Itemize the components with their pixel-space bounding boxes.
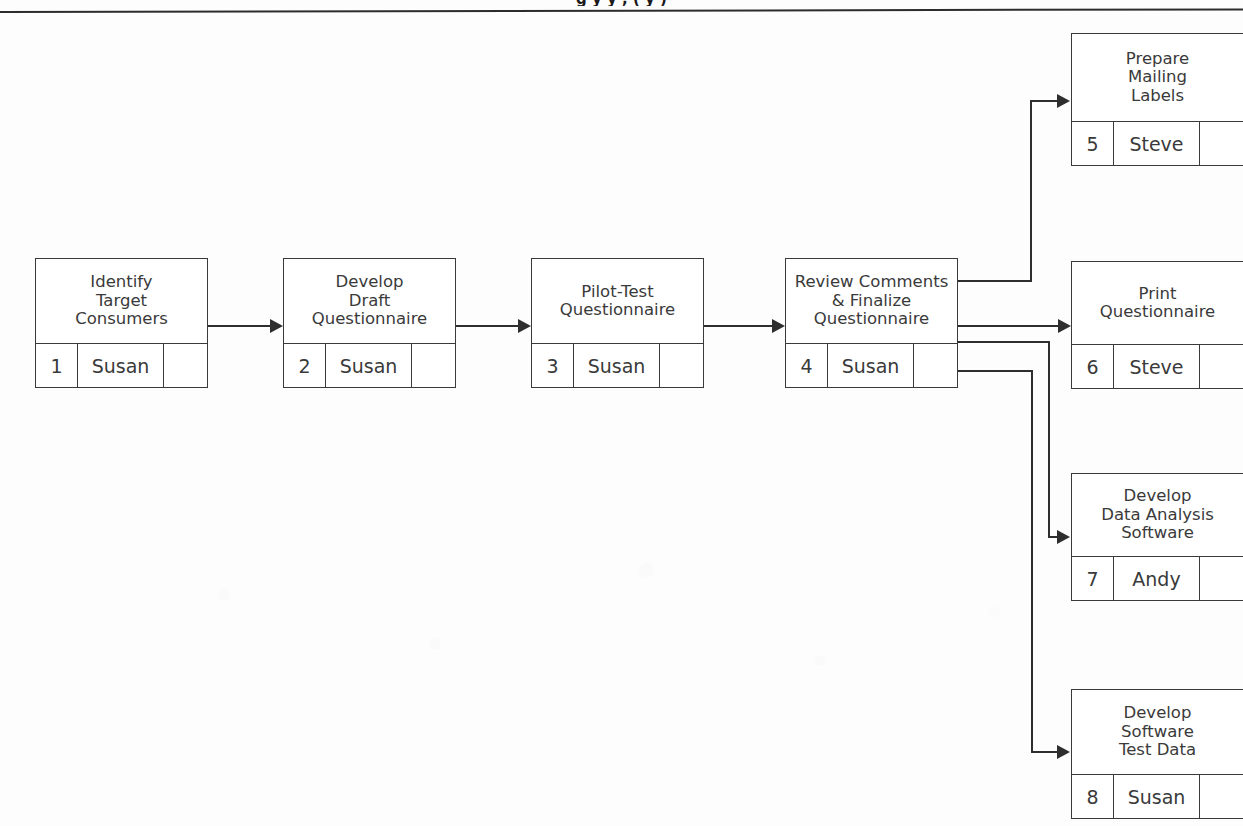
task-extra — [660, 344, 703, 387]
arrowhead-2-to-3 — [518, 319, 531, 333]
task-extra — [1200, 345, 1243, 388]
task-footer: 5 Steve — [1072, 121, 1243, 165]
task-owner: Andy — [1114, 557, 1200, 600]
task-footer: 2 Susan — [284, 343, 455, 387]
connector-4-to-8-segment-h2 — [1031, 751, 1058, 753]
task-title: Pilot-Test Questionnaire — [532, 259, 703, 343]
task-footer: 7 Andy — [1072, 556, 1243, 600]
arrowhead-4-to-6 — [1058, 319, 1071, 333]
connector-4-to-5-segment-v — [1030, 100, 1032, 282]
task-extra — [164, 344, 207, 387]
task-title: Develop Software Test Data — [1072, 690, 1243, 774]
task-extra — [412, 344, 455, 387]
connector-4-to-5-segment-h2 — [1030, 100, 1058, 102]
connector-4-to-8-segment-v — [1031, 370, 1033, 753]
task-title: Develop Data Analysis Software — [1072, 474, 1243, 556]
task-id: 2 — [284, 344, 326, 387]
task-box-identify-target-consumers[interactable]: Identify Target Consumers 1 Susan — [35, 258, 208, 388]
arrowhead-4-to-7 — [1057, 530, 1070, 544]
task-owner: Susan — [326, 344, 412, 387]
arrowhead-1-to-2 — [270, 319, 283, 333]
task-title: Develop Draft Questionnaire — [284, 259, 455, 343]
task-id: 3 — [532, 344, 574, 387]
task-id: 1 — [36, 344, 78, 387]
task-id: 6 — [1072, 345, 1114, 388]
task-box-prepare-mailing-labels[interactable]: Prepare Mailing Labels 5 Steve — [1071, 33, 1243, 166]
task-id: 5 — [1072, 122, 1114, 165]
task-owner: Susan — [1114, 775, 1200, 818]
task-footer: 3 Susan — [532, 343, 703, 387]
task-id: 8 — [1072, 775, 1114, 818]
header-rule — [0, 8, 1243, 13]
task-owner: Steve — [1114, 122, 1200, 165]
task-owner: Steve — [1114, 345, 1200, 388]
connector-4-to-6 — [958, 325, 1058, 327]
task-box-print-questionnaire[interactable]: Print Questionnaire 6 Steve — [1071, 261, 1243, 389]
connector-2-to-3 — [456, 325, 518, 327]
task-owner: Susan — [574, 344, 660, 387]
task-extra — [914, 344, 957, 387]
arrowhead-3-to-4 — [772, 319, 785, 333]
task-owner: Susan — [828, 344, 914, 387]
task-title: Print Questionnaire — [1072, 262, 1243, 344]
task-footer: 4 Susan — [786, 343, 957, 387]
task-id: 4 — [786, 344, 828, 387]
connector-3-to-4 — [704, 325, 772, 327]
task-box-pilot-test-questionnaire[interactable]: Pilot-Test Questionnaire 3 Susan — [531, 258, 704, 388]
task-extra — [1200, 775, 1243, 818]
connector-1-to-2 — [208, 325, 270, 327]
task-footer: 8 Susan — [1072, 774, 1243, 818]
task-title: Prepare Mailing Labels — [1072, 34, 1243, 121]
task-footer: 6 Steve — [1072, 344, 1243, 388]
scan-texture — [0, 0, 1243, 826]
task-id: 7 — [1072, 557, 1114, 600]
diagram-canvas: g y y , ( y ) Identify Target Consumers … — [0, 0, 1243, 826]
task-extra — [1200, 557, 1243, 600]
arrowhead-4-to-8 — [1057, 745, 1070, 759]
task-title: Review Comments & Finalize Questionnaire — [786, 259, 957, 343]
task-footer: 1 Susan — [36, 343, 207, 387]
connector-4-to-7-segment-h1 — [958, 341, 1050, 343]
task-box-review-comments-finalize-questionnaire[interactable]: Review Comments & Finalize Questionnaire… — [785, 258, 958, 388]
connector-4-to-8-segment-h1 — [958, 370, 1033, 372]
task-box-develop-software-test-data[interactable]: Develop Software Test Data 8 Susan — [1071, 689, 1243, 819]
task-owner: Susan — [78, 344, 164, 387]
connector-4-to-5-segment-h1 — [958, 280, 1032, 282]
task-title: Identify Target Consumers — [36, 259, 207, 343]
connector-4-to-7-segment-v — [1048, 341, 1050, 538]
task-extra — [1200, 122, 1243, 165]
task-box-develop-draft-questionnaire[interactable]: Develop Draft Questionnaire 2 Susan — [283, 258, 456, 388]
task-box-develop-data-analysis-software[interactable]: Develop Data Analysis Software 7 Andy — [1071, 473, 1243, 601]
page-title: g y y , ( y ) — [0, 0, 1243, 6]
arrowhead-4-to-5 — [1057, 94, 1070, 108]
